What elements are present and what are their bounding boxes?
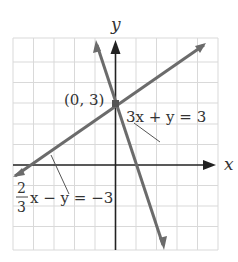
y-axis-arrow-icon [111,40,121,54]
intersection-point [112,100,119,107]
eq2-fraction-denominator: 3 [17,199,26,215]
x-axis-arrow-icon [203,160,216,170]
eq2-fraction-numerator: 2 [17,180,26,196]
x-axis-label: x [224,154,234,174]
point-label: (0, 3) [64,91,104,109]
graph-canvas: y x (0, 3) 3x + y = 3 2 3 x − y = −3 [0,0,238,262]
y-axis-label: y [110,14,121,34]
line-eq1-arrow-bottom-icon [159,236,167,250]
eq1-label: 3x + y = 3 [126,108,206,126]
line-eq1-arrow-top-icon [93,40,101,53]
eq2-label: x − y = −3 [30,189,113,207]
